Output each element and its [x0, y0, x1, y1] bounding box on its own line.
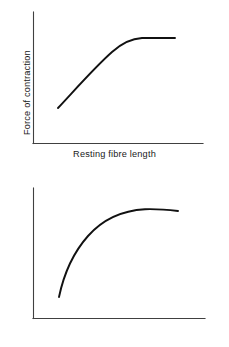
figure-container: Resting fibre length Force of contractio…	[0, 0, 229, 347]
x-axis-label-top: Resting fibre length	[0, 149, 229, 159]
y-axis-label-top: Force of contraction	[22, 50, 32, 135]
data-curve-force-of-contraction	[58, 38, 175, 108]
data-curve-stroke-volume	[59, 209, 178, 297]
length-tension-plot	[0, 0, 229, 174]
chart-panel-cardiac-function: Left ventricular end diastolic pressure …	[0, 174, 229, 347]
chart-panel-length-tension: Resting fibre length Force of contractio…	[0, 0, 229, 174]
cardiac-function-plot	[0, 174, 229, 347]
